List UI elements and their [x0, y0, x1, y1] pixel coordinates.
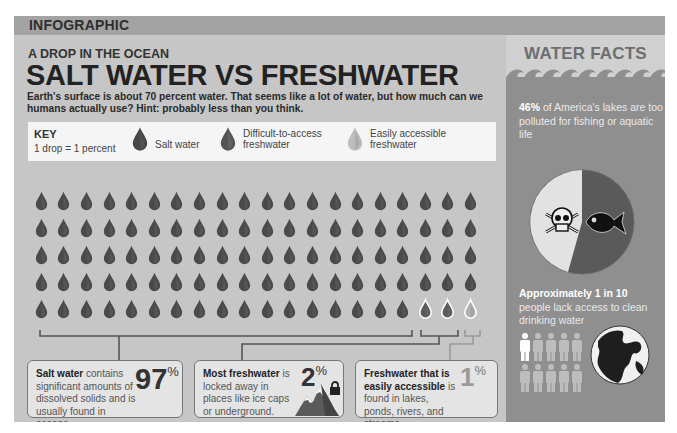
drop-salt-icon	[459, 270, 482, 297]
drop-salt-icon	[414, 216, 437, 243]
drop-salt-icon	[346, 297, 369, 324]
drop-salt-icon	[53, 189, 76, 216]
lock-icon	[329, 381, 341, 395]
difficult-freshwater-box: Most freshwater is locked away in places…	[194, 360, 344, 418]
drop-salt-icon	[211, 216, 234, 243]
easy-freshwater-box: Freshwater that is easily accessible is …	[355, 360, 498, 418]
drop-salt-icon	[120, 297, 143, 324]
legend-key: KEY 1 drop = 1 percent Salt water Diffic…	[28, 122, 496, 161]
drop-salt-icon	[437, 189, 460, 216]
key-label-difficult: Difficult-to-accessfreshwater	[243, 128, 322, 150]
person-icon	[520, 333, 530, 361]
key-subtitle: 1 drop = 1 percent	[34, 143, 115, 154]
main-panel: A DROP IN THE OCEAN SALT WATER VS FRESHW…	[14, 35, 506, 422]
person-icon	[559, 364, 569, 392]
difficult-freshwater-text: Most freshwater is locked away in places…	[203, 368, 291, 418]
drop-row	[30, 297, 490, 324]
person-icon	[533, 364, 543, 392]
drop-salt-icon	[279, 243, 302, 270]
drop-salt-icon	[256, 243, 279, 270]
drop-salt-icon	[279, 216, 302, 243]
fact-drinking-water: Approximately 1 in 10 people lack access…	[519, 287, 665, 328]
drop-salt-icon	[392, 297, 415, 324]
person-icon	[533, 333, 543, 361]
drop-salt-icon	[301, 297, 324, 324]
key-label-salt: Salt water	[155, 139, 199, 150]
drop-salt-icon	[75, 243, 98, 270]
drop-salt-icon	[166, 270, 189, 297]
drop-salt-icon	[324, 216, 347, 243]
key-item-easy: Easily accessiblefreshwater	[346, 126, 446, 152]
drop-dark-icon	[131, 126, 149, 152]
fact-polluted-lakes: 46% of America's lakes are too polluted …	[519, 101, 665, 142]
drop-salt-icon	[211, 270, 234, 297]
drop-salt-icon	[369, 189, 392, 216]
drop-salt-icon	[301, 270, 324, 297]
drop-salt-icon	[256, 297, 279, 324]
drop-salt-icon	[53, 216, 76, 243]
drop-salt-icon	[188, 297, 211, 324]
drop-grid	[30, 189, 490, 324]
person-icon	[559, 333, 569, 361]
salt-water-box: Salt water contains significant amounts …	[27, 360, 183, 418]
drop-salt-icon	[143, 270, 166, 297]
drop-salt-icon	[188, 270, 211, 297]
person-icon	[572, 333, 582, 361]
drop-salt-icon	[233, 297, 256, 324]
drop-salt-icon	[369, 216, 392, 243]
drop-salt-icon	[437, 270, 460, 297]
intro-text: Earth's surface is about 70 percent wate…	[27, 91, 507, 115]
drop-easy-icon	[459, 297, 482, 324]
drop-salt-icon	[233, 189, 256, 216]
drop-salt-icon	[30, 297, 53, 324]
drop-salt-icon	[301, 216, 324, 243]
drop-salt-icon	[188, 216, 211, 243]
key-title: KEY	[34, 128, 57, 140]
drop-salt-icon	[279, 270, 302, 297]
polluted-lakes-pie-chart	[528, 168, 636, 276]
drop-salt-icon	[233, 243, 256, 270]
drop-salt-icon	[75, 216, 98, 243]
drop-salt-icon	[414, 243, 437, 270]
drop-salt-icon	[143, 243, 166, 270]
drop-salt-icon	[346, 189, 369, 216]
key-item-salt: Salt water	[131, 126, 199, 152]
drop-salt-icon	[98, 270, 121, 297]
globe-icon	[590, 325, 650, 385]
drop-salt-icon	[392, 189, 415, 216]
drop-salt-icon	[30, 270, 53, 297]
drop-salt-icon	[53, 270, 76, 297]
key-label-easy: Easily accessiblefreshwater	[370, 128, 446, 150]
drop-salt-icon	[346, 216, 369, 243]
drop-salt-icon	[256, 216, 279, 243]
drop-salt-icon	[437, 243, 460, 270]
drop-salt-icon	[369, 297, 392, 324]
salt-water-percent: 97%	[135, 363, 179, 396]
drop-row	[30, 216, 490, 243]
person-icon	[546, 333, 556, 361]
drop-salt-icon	[256, 270, 279, 297]
drop-salt-icon	[166, 297, 189, 324]
drop-salt-icon	[166, 189, 189, 216]
infographic-frame: INFOGRAPHIC A DROP IN THE OCEAN SALT WAT…	[14, 16, 665, 422]
drop-salt-icon	[301, 243, 324, 270]
person-icon	[546, 364, 556, 392]
person-icon	[520, 364, 530, 392]
drop-salt-icon	[75, 189, 98, 216]
drop-salt-icon	[392, 216, 415, 243]
drop-salt-icon	[120, 189, 143, 216]
drop-salt-icon	[459, 189, 482, 216]
drop-salt-icon	[120, 216, 143, 243]
drop-salt-icon	[188, 243, 211, 270]
drop-salt-icon	[120, 243, 143, 270]
drop-salt-icon	[369, 270, 392, 297]
drop-salt-icon	[188, 189, 211, 216]
drop-salt-icon	[75, 270, 98, 297]
drop-salt-icon	[256, 189, 279, 216]
drop-row	[30, 270, 490, 297]
drop-salt-icon	[346, 243, 369, 270]
drop-salt-icon	[30, 216, 53, 243]
drop-salt-icon	[324, 243, 347, 270]
drop-salt-icon	[53, 297, 76, 324]
drop-difficult-icon	[414, 297, 437, 324]
